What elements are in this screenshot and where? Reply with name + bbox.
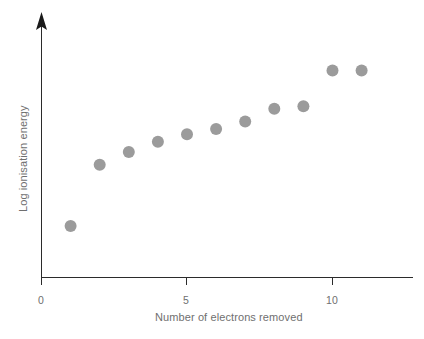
x-axis-ticks [42, 277, 333, 285]
data-point [356, 64, 368, 76]
data-point [65, 220, 77, 232]
data-point [152, 136, 164, 148]
x-tick-label-0: 0 [38, 295, 44, 306]
data-point [94, 159, 106, 171]
chart-figure: 0 5 10 Number of electrons removed Log i… [0, 0, 424, 339]
data-point [181, 128, 193, 140]
data-point [297, 100, 309, 112]
x-axis-title: Number of electrons removed [155, 312, 303, 323]
data-point [123, 146, 135, 158]
y-axis-title: Log ionisation energy [18, 105, 29, 212]
data-point [268, 103, 280, 115]
x-tick-label-5: 5 [183, 295, 189, 306]
x-tick-label-10: 10 [326, 295, 338, 306]
data-point [239, 115, 251, 127]
data-point-group [65, 64, 368, 232]
data-point [210, 123, 222, 135]
data-point [327, 64, 339, 76]
scatter-plot-canvas [0, 0, 424, 339]
